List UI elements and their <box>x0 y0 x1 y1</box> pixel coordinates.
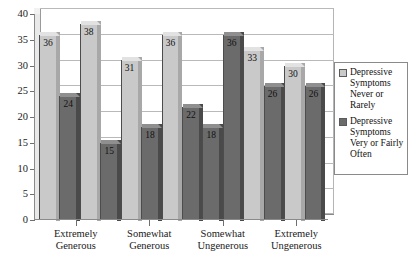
legend-item-very-or-fairly-often[interactable]: Depressive Symptoms Very or Fairly Often <box>339 116 404 160</box>
x-category-line: Generous <box>107 240 191 252</box>
legend-label: Depressive Symptoms Very or Fairly Often <box>350 116 404 160</box>
x-category-line: Somewhat <box>181 228 265 240</box>
x-category-line: Extremely <box>254 228 338 240</box>
plot-frame <box>34 14 328 220</box>
x-category-line: Somewhat <box>107 228 191 240</box>
x-category-label: SomewhatUngenerous <box>181 228 265 252</box>
x-category-label: ExtremelyUngenerous <box>254 228 338 252</box>
legend-swatch-icon-light <box>339 69 347 77</box>
legend-label: Depressive Symptoms Never or Rarely <box>350 67 404 111</box>
x-tick-mark <box>149 220 150 226</box>
x-category-line: Ungenerous <box>181 240 265 252</box>
bar-chart: 4035302520151050 36243815311836221836332… <box>0 0 411 273</box>
x-category-label: SomewhatGenerous <box>107 228 191 252</box>
legend-item-never-or-rarely[interactable]: Depressive Symptoms Never or Rarely <box>339 67 404 111</box>
x-tick-mark <box>296 220 297 226</box>
chart-legend: Depressive Symptoms Never or Rarely Depr… <box>334 62 408 175</box>
x-tick-mark <box>223 220 224 226</box>
x-category-line: Generous <box>34 240 118 252</box>
legend-swatch-icon-dark <box>339 118 347 126</box>
x-category-line: Ungenerous <box>254 240 338 252</box>
x-category-label: ExtremelyGenerous <box>34 228 118 252</box>
x-category-line: Extremely <box>34 228 118 240</box>
x-tick-mark <box>76 220 77 226</box>
